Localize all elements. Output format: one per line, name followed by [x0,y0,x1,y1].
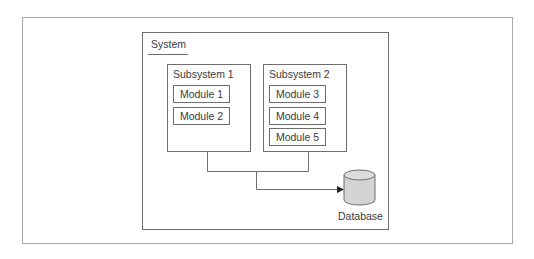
database-label: Database [338,210,383,222]
arrow-head-icon [337,186,344,193]
merge-connector [208,151,309,172]
database-icon [344,170,375,205]
connector-lines [0,0,534,259]
db-connector [257,172,339,190]
